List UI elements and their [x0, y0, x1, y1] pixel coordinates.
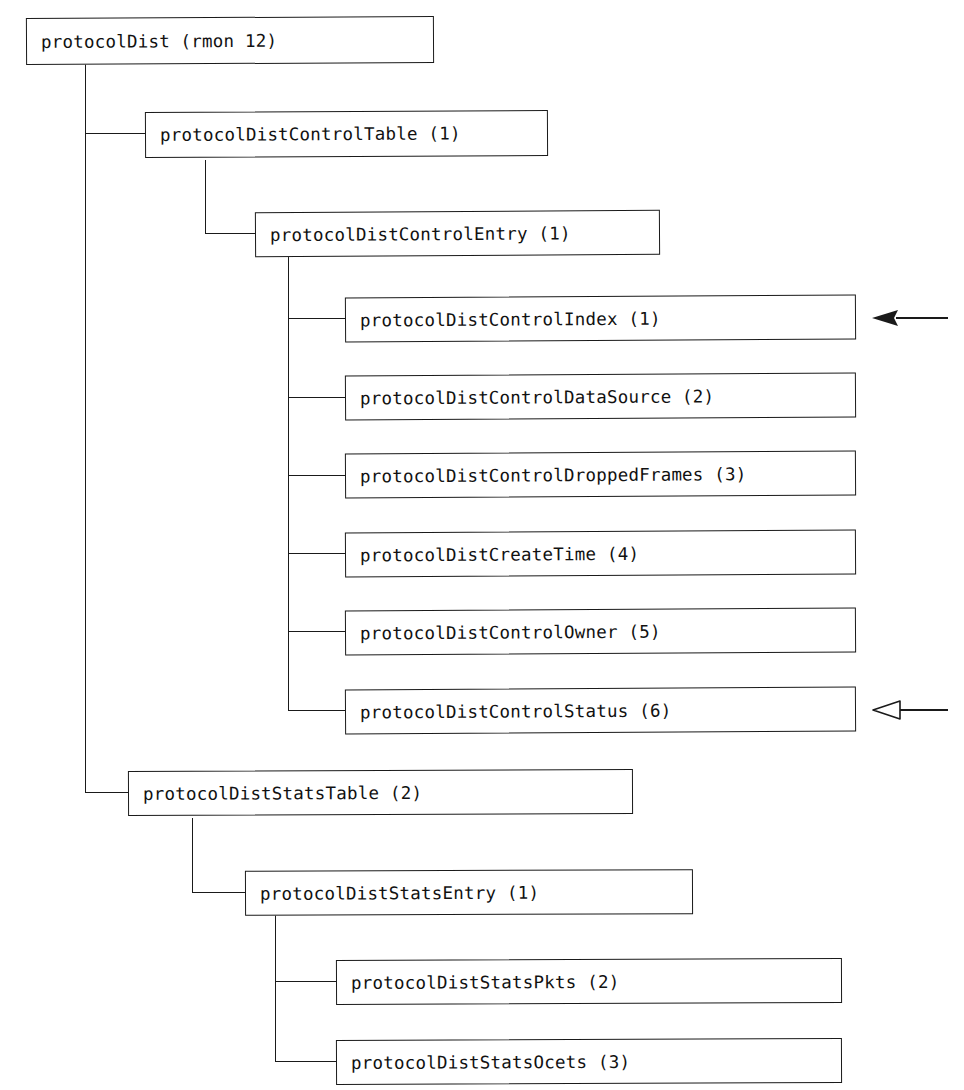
node-label: protocolDistStatsOcets (3)	[351, 1051, 630, 1072]
node-protocol-dist-control-table[interactable]: protocolDistControlTable (1)	[145, 110, 548, 158]
node-protocol-dist-stats-table[interactable]: protocolDistStatsTable (2)	[128, 769, 633, 816]
node-label: protocolDistCreateTime (4)	[360, 543, 639, 565]
node-label: protocolDistControlDroppedFrames (3)	[360, 464, 747, 486]
edge-entry-to-status	[288, 710, 346, 711]
annotation-arrow-hollow-left-icon	[872, 699, 948, 721]
edge-stats-entry-spine	[275, 914, 276, 1062]
node-protocol-dist-control-dropped-frames[interactable]: protocolDistControlDroppedFrames (3)	[345, 450, 856, 498]
node-protocol-dist[interactable]: protocolDist (rmon 12)	[26, 16, 434, 65]
node-protocol-dist-stats-entry[interactable]: protocolDistStatsEntry (1)	[245, 869, 693, 916]
edge-root-to-stats-table	[85, 792, 129, 793]
edge-root-to-control-table	[85, 133, 146, 134]
edge-root-spine	[85, 64, 86, 793]
node-protocol-dist-control-index[interactable]: protocolDistControlIndex (1)	[345, 294, 856, 342]
edge-stats-table-spine	[192, 818, 193, 893]
node-label: protocolDistStatsEntry (1)	[260, 882, 539, 903]
node-label: protocolDistControlTable (1)	[160, 123, 461, 144]
node-label: protocolDistControlOwner (5)	[360, 621, 661, 643]
node-protocol-dist-stats-ocets[interactable]: protocolDistStatsOcets (3)	[336, 1038, 842, 1085]
edge-control-table-spine	[205, 160, 206, 234]
node-protocol-dist-control-entry[interactable]: protocolDistControlEntry (1)	[255, 210, 660, 257]
node-protocol-dist-control-owner[interactable]: protocolDistControlOwner (5)	[345, 607, 856, 655]
node-label: protocolDistControlIndex (1)	[360, 308, 661, 330]
node-protocol-dist-stats-pkts[interactable]: protocolDistStatsPkts (2)	[336, 958, 842, 1005]
node-label: protocolDistControlStatus (6)	[360, 700, 671, 722]
edge-entry-to-statsocets	[275, 1061, 337, 1062]
edge-control-entry-spine	[288, 255, 289, 711]
edge-entry-to-createtime	[288, 553, 346, 554]
node-protocol-dist-control-status[interactable]: protocolDistControlStatus (6)	[345, 686, 856, 734]
node-label: protocolDistStatsTable (2)	[143, 782, 422, 803]
edge-entry-to-droppedframes	[288, 475, 346, 476]
annotation-arrow-solid-left-icon	[872, 307, 948, 329]
node-label: protocolDistControlEntry (1)	[270, 223, 571, 245]
node-label: protocolDistStatsPkts (2)	[351, 971, 619, 992]
mib-tree-diagram: protocolDist (rmon 12) protocolDistContr…	[0, 0, 964, 1090]
node-label: protocolDistControlDataSource (2)	[360, 386, 714, 408]
node-label: protocolDist (rmon 12)	[41, 30, 277, 51]
node-protocol-dist-control-data-source[interactable]: protocolDistControlDataSource (2)	[345, 372, 856, 420]
edge-entry-to-statspkts	[275, 981, 337, 982]
node-protocol-dist-create-time[interactable]: protocolDistCreateTime (4)	[345, 529, 856, 577]
edge-entry-to-datasource	[288, 397, 346, 398]
edge-entry-to-owner	[288, 631, 346, 632]
edge-stats-table-to-entry	[192, 892, 246, 893]
edge-control-table-to-entry	[205, 233, 256, 234]
edge-entry-to-index	[288, 318, 346, 319]
